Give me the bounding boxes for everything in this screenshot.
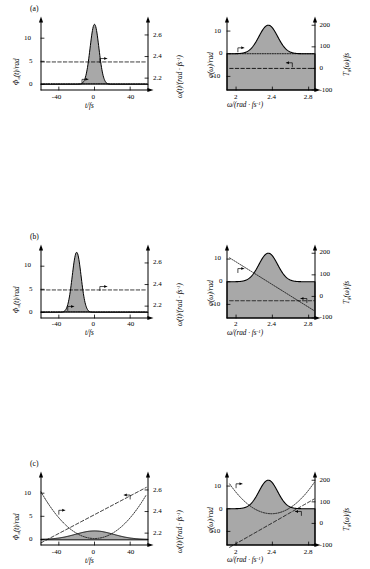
xtick: 2.8 — [304, 548, 313, 556]
ytick-left: 10 — [214, 27, 221, 35]
ytick-left: 0 — [29, 80, 33, 88]
ytick-left: 5 — [29, 57, 33, 65]
ytick-left: 10 — [214, 254, 221, 262]
y-axis-label-right: ω(t)/(rad · fs-1) — [176, 55, 184, 98]
ytick-right: 2.2 — [153, 529, 162, 537]
xtick: 2.4 — [267, 548, 276, 556]
ytick-left: 0 — [219, 277, 223, 285]
y-axis-label-right: Tg(ω)/fs — [343, 508, 351, 531]
ytick-right: 2.2 — [153, 74, 162, 82]
ytick-right: 2.2 — [153, 301, 162, 309]
panel-row-c: (c)05102.22.42.6-40040t/fsΦa(t)/radω(t)/… — [0, 455, 370, 569]
ytick-left: 0 — [219, 49, 223, 57]
ytick-right: 100 — [320, 498, 331, 506]
y-axis-label-right: Tg(ω)/fs — [343, 281, 351, 304]
figure-panel-grid: (a)05102.22.42.6-40040t/fsΦa(t)/radω(t)/… — [0, 0, 370, 569]
x-axis-label: t/fs — [85, 557, 94, 565]
xtick: 0 — [92, 548, 96, 556]
xtick: 2.8 — [304, 320, 313, 328]
xtick: -40 — [52, 320, 61, 328]
x-axis-label: ω/(rad · fs-1) — [227, 101, 263, 109]
xtick: 0 — [92, 93, 96, 101]
spectral-plot-b: -10010-100010020022.42.8ω/(rad · fs-1)φ(… — [185, 228, 370, 342]
ytick-right: 2.4 — [153, 52, 162, 60]
panel-tag: (b) — [30, 232, 39, 241]
ytick-right: -100 — [320, 86, 333, 94]
ytick-right: 0 — [320, 292, 324, 300]
ytick-left: 10 — [24, 34, 31, 42]
xtick: 2.8 — [304, 93, 313, 101]
spectral-plot-c: -10010-100010020022.42.8ω/(rad · fs-1)φ(… — [185, 455, 370, 569]
xtick: -40 — [52, 93, 61, 101]
ytick-left: 0 — [29, 308, 33, 316]
ytick-right: 2.6 — [153, 486, 162, 494]
xtick: 40 — [127, 93, 134, 101]
y-axis-label-left: Φa(t)/rad — [13, 286, 21, 313]
x-axis-label: t/fs — [85, 102, 94, 110]
xtick: -40 — [52, 548, 61, 556]
ytick-right: 200 — [320, 21, 331, 29]
temporal-plot-b: (b)05102.22.42.6-40040t/fsΦa(t)/radω(t)/… — [0, 228, 185, 342]
ytick-right: 200 — [320, 476, 331, 484]
ytick-right: 2.4 — [153, 280, 162, 288]
ytick-left: 10 — [214, 482, 221, 490]
y-axis-label-left: φ(ω)/rad — [207, 52, 215, 78]
y-axis-label-left: φ(ω)/rad — [207, 280, 215, 306]
panel-row-b: (b)05102.22.42.6-40040t/fsΦa(t)/radω(t)/… — [0, 228, 370, 342]
x-axis-label: t/fs — [85, 329, 94, 337]
panel-tag: (a) — [30, 4, 38, 13]
x-axis-label: ω/(rad · fs-1) — [227, 329, 263, 337]
xtick: 2.4 — [267, 93, 276, 101]
ytick-left: 10 — [24, 261, 31, 269]
ytick-right: -100 — [320, 541, 333, 549]
ytick-right: 2.6 — [153, 31, 162, 39]
panel-row-a: (a)05102.22.42.6-40040t/fsΦa(t)/radω(t)/… — [0, 0, 370, 114]
ytick-left: 5 — [29, 285, 33, 293]
ytick-right: 200 — [320, 248, 331, 256]
ytick-right: 100 — [320, 42, 331, 50]
ytick-right: -100 — [320, 313, 333, 321]
xtick: 2 — [234, 320, 238, 328]
ytick-left: 5 — [29, 512, 33, 520]
temporal-plot-c: (c)05102.22.42.6-40040t/fsΦa(t)/radω(t)/… — [0, 455, 185, 569]
ytick-left: 0 — [29, 535, 33, 543]
ytick-left: 0 — [219, 505, 223, 513]
spectral-plot-a: -10010-100010020022.42.8ω/(rad · fs-1)φ(… — [185, 0, 370, 114]
y-axis-label-left: Φa(t)/rad — [13, 58, 21, 85]
xtick: 2.4 — [267, 320, 276, 328]
y-axis-label-left: φ(ω)/rad — [207, 507, 215, 533]
x-axis-label: ω/(rad · fs-1) — [227, 556, 263, 564]
ytick-right: 2.6 — [153, 258, 162, 266]
xtick: 0 — [92, 320, 96, 328]
temporal-plot-a: (a)05102.22.42.6-40040t/fsΦa(t)/radω(t)/… — [0, 0, 185, 114]
y-axis-label-right: Tg(ω)/fs — [343, 53, 351, 76]
y-axis-label-right: ω(t)/(rad · fs-1) — [176, 283, 184, 326]
panel-tag: (c) — [30, 459, 38, 468]
xtick: 40 — [127, 548, 134, 556]
xtick: 40 — [127, 320, 134, 328]
ytick-right: 2.4 — [153, 507, 162, 515]
ytick-right: 100 — [320, 270, 331, 278]
xtick: 2 — [234, 548, 238, 556]
y-axis-label-right: ω(t)/(rad · fs-1) — [176, 510, 184, 553]
ytick-left: 10 — [24, 489, 31, 497]
y-axis-label-left: Φa(t)/rad — [13, 513, 21, 540]
ytick-right: 0 — [320, 64, 324, 72]
xtick: 2 — [234, 93, 238, 101]
ytick-right: 0 — [320, 519, 324, 527]
